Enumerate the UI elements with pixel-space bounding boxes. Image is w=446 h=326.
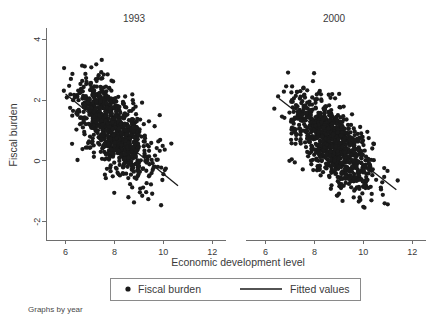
legend-label-fitted-values: Fitted values bbox=[290, 283, 350, 295]
scatter-points-1993 bbox=[62, 58, 174, 208]
x-axis-title: Economic development level bbox=[171, 256, 305, 268]
y-tick-label-4: 4 bbox=[32, 37, 42, 42]
y-tick-label-2: 2 bbox=[32, 97, 42, 102]
y-tick-label--2: -2 bbox=[32, 218, 42, 226]
x-tick-label-2000-12: 12 bbox=[407, 247, 417, 257]
x-tick-label-2000-10: 10 bbox=[358, 247, 368, 257]
y-tick-label-0: 0 bbox=[32, 158, 42, 163]
figure-container: 420-2Fiscal burden19936810122000681012Ec… bbox=[0, 0, 446, 326]
panel-title-1993: 1993 bbox=[123, 13, 146, 24]
panel-title-2000: 2000 bbox=[323, 13, 346, 24]
scatter-points-2000 bbox=[272, 70, 400, 209]
scatter-plot-chart: 420-2Fiscal burden19936810122000681012Ec… bbox=[0, 0, 446, 326]
x-tick-label-2000-8: 8 bbox=[312, 247, 317, 257]
x-tick-label-1993-10: 10 bbox=[158, 247, 168, 257]
y-axis-title: Fiscal burden bbox=[7, 103, 19, 166]
graphs-by-note: Graphs by year bbox=[28, 305, 83, 314]
legend-marker-dot bbox=[125, 286, 130, 291]
x-tick-label-1993-6: 6 bbox=[63, 247, 68, 257]
legend-label-fiscal-burden: Fiscal burden bbox=[138, 283, 201, 295]
x-tick-label-1993-8: 8 bbox=[112, 247, 117, 257]
